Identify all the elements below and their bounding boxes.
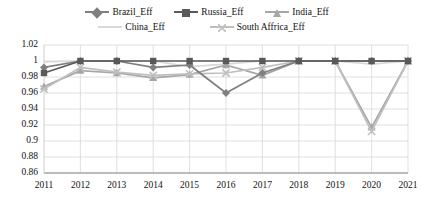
- x-axis-tick: 2012: [60, 180, 100, 190]
- x-axis-tick: 2018: [279, 180, 319, 190]
- y-axis-tick: 1: [4, 55, 38, 65]
- y-axis-tick: 0.88: [4, 151, 38, 161]
- y-axis-tick: 0.96: [4, 87, 38, 97]
- x-axis-tick: 2017: [242, 180, 282, 190]
- y-axis-tick: 0.92: [4, 119, 38, 129]
- y-axis-tick: 0.86: [4, 167, 38, 177]
- y-axis-tick: 0.9: [4, 135, 38, 145]
- y-axis-tick: 0.94: [4, 103, 38, 113]
- x-axis-tick: 2011: [24, 180, 64, 190]
- y-axis-tick: 1.02: [4, 39, 38, 49]
- y-axis-tick: 0.98: [4, 71, 38, 81]
- x-axis-tick: 2021: [388, 180, 422, 190]
- x-axis-tick: 2019: [315, 180, 355, 190]
- x-axis-tick: 2014: [133, 180, 173, 190]
- x-axis-tick: 2015: [170, 180, 210, 190]
- x-axis-tick: 2020: [352, 180, 392, 190]
- x-axis-tick: 2016: [206, 180, 246, 190]
- x-axis-tick: 2013: [97, 180, 137, 190]
